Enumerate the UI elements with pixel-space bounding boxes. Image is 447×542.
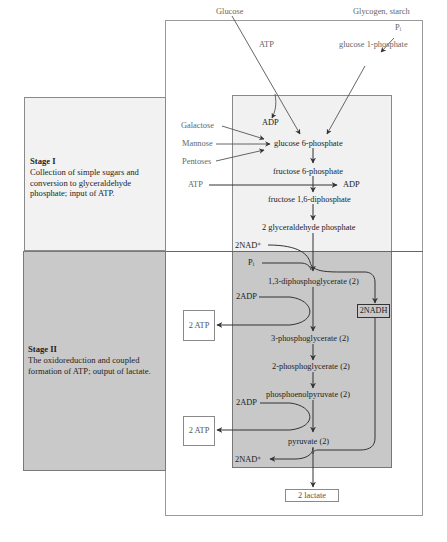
label-glucose-1-phosphate: glucose 1-phosphate	[339, 40, 408, 49]
label-pentoses: Pentoses	[182, 157, 211, 166]
metabolite-3-phosphoglycerate: 3-phosphoglycerate (2)	[271, 334, 349, 343]
cofactor-nadh: 2NADH	[357, 304, 390, 318]
label-pi-top: Pᵢ	[395, 23, 401, 32]
metabolite-glyceraldehyde-phosphate: 2 glyceraldehyde phosphate	[262, 223, 356, 232]
metabolite-glucose-6-phosphate: glucose 6-phosphate	[274, 139, 343, 148]
metabolite-phosphoenolpyruvate: phosphoenolpyruvate (2)	[266, 390, 350, 399]
metabolite-1-3-diphosphoglycerate: 1,3-diphosphoglycerate (2)	[268, 277, 359, 286]
label-galactose: Galactose	[181, 121, 214, 130]
product-lactate: 2 lactate	[285, 489, 339, 502]
label-adp-mid: ADP	[343, 180, 360, 189]
arrow-glucose-to-g6p	[232, 16, 300, 134]
metabolite-fructose-6-phosphate: fructose 6-phosphate	[273, 167, 343, 176]
label-glycogen-starch: Glycogen, starch	[353, 7, 410, 16]
label-mannose: Mannose	[182, 139, 213, 148]
output-atp-2: 2 ATP	[183, 416, 215, 446]
output-atp-1: 2 ATP	[183, 310, 215, 341]
cofactor-2adp-1: 2ADP	[236, 292, 257, 301]
label-adp-top: ADP	[262, 118, 279, 127]
label-atp-top: ATP	[259, 40, 274, 49]
cofactor-nad-out: 2NAD⁺	[235, 454, 261, 464]
cofactor-2adp-2: 2ADP	[236, 398, 257, 407]
arrow-layer	[0, 0, 447, 542]
cofactor-nad-in: 2NAD⁺	[235, 240, 261, 250]
cofactor-pi: Pᵢ	[248, 258, 254, 267]
metabolite-pyruvate: pyruvate (2)	[288, 437, 329, 446]
metabolite-2-phosphoglycerate: 2-phosphoglycerate (2)	[272, 362, 350, 371]
label-atp-mid: ATP	[188, 180, 203, 189]
metabolite-fructose-1-6-diphosphate: fructose 1,6-diphosphate	[268, 195, 351, 204]
label-glucose: Glucose	[216, 7, 243, 16]
